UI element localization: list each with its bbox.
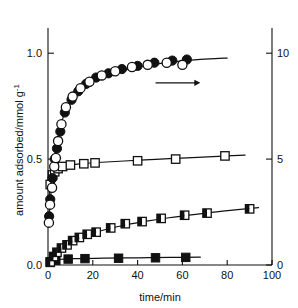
marker-circle-open [47, 183, 56, 192]
scatter-plot: 0204060801000.00.51.00510 time/min amoun… [0, 0, 298, 308]
marker-square-filled [81, 254, 89, 262]
marker-square-open [221, 152, 229, 160]
x-axis-title: time/min [139, 291, 181, 303]
marker-square-filled [114, 254, 122, 262]
marker-square-filled [64, 255, 72, 263]
marker-circle-open [45, 200, 54, 209]
svg-text:amount adsorbed/mmol g-1: amount adsorbed/mmol g-1 [12, 84, 25, 216]
x-tick-label: 20 [87, 269, 99, 281]
marker-square-filled [151, 254, 159, 262]
marker-circle-open [53, 136, 62, 145]
marker-square-half [107, 224, 115, 232]
annotations [156, 80, 201, 86]
x-tick-label: 40 [131, 269, 143, 281]
y-axis-title-main: amount adsorbed/mmol g [13, 91, 25, 216]
marker-square-open [133, 157, 141, 165]
marker-circle-open [68, 92, 77, 101]
marker-square-half [138, 217, 146, 225]
open-squares-fit [49, 155, 245, 195]
marker-square-half [75, 233, 83, 241]
series-open-circles [44, 58, 187, 227]
circles-fit [49, 58, 228, 223]
y-right-tick-label: 5 [277, 153, 283, 165]
x-tick-label: 80 [221, 269, 233, 281]
marker-circle-open [57, 120, 66, 129]
marker-square-open [58, 162, 66, 170]
y-left-tick-label: 0.5 [27, 153, 42, 165]
marker-circle-open [127, 62, 136, 71]
marker-square-open [171, 155, 179, 163]
marker-circle-open [143, 60, 152, 69]
x-tick-label: 60 [176, 269, 188, 281]
y-right-tick-label: 0 [277, 259, 283, 271]
right-axis-arrow [156, 80, 201, 86]
marker-square-filled [182, 253, 190, 261]
data-markers [44, 55, 254, 267]
marker-square-half [121, 219, 129, 227]
marker-circle-open [44, 218, 53, 227]
marker-circle-open [162, 58, 171, 67]
marker-circle-filled [48, 174, 57, 183]
marker-square-half [180, 211, 188, 219]
y-right-tick-label: 10 [277, 47, 289, 59]
marker-circle-open [111, 67, 120, 76]
marker-square-half [157, 214, 165, 222]
marker-circle-open [50, 162, 59, 171]
marker-square-open [80, 160, 88, 168]
y-axis-title: amount adsorbed/mmol g-1 [12, 84, 25, 216]
marker-circle-open [178, 60, 187, 69]
x-tick-label: 0 [45, 269, 51, 281]
marker-circle-open [51, 153, 60, 162]
marker-square-half [83, 230, 91, 238]
marker-circle-open [76, 84, 85, 93]
y-left-tick-label: 0.0 [27, 259, 42, 271]
marker-circle-open [97, 71, 106, 80]
marker-circle-open [61, 103, 70, 112]
series-filled-circles [45, 55, 192, 221]
series-half-filled-squares [46, 205, 254, 266]
y-axis-title-exponent: -1 [12, 84, 21, 92]
marker-circle-open [85, 77, 94, 86]
marker-square-half [203, 209, 211, 217]
marker-square-half [245, 205, 253, 213]
figure-container: 0204060801000.00.51.00510 time/min amoun… [0, 0, 298, 308]
marker-square-open [91, 159, 99, 167]
marker-square-half [92, 228, 100, 236]
y-left-tick-label: 1.0 [27, 47, 42, 59]
marker-square-open [66, 161, 74, 169]
